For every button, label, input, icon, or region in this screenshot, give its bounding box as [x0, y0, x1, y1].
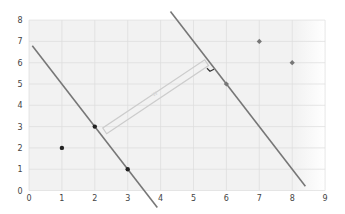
x-tick-label: 1: [59, 194, 64, 203]
data-point-class-a: [93, 124, 97, 128]
y-axis-ticks: 012345678: [17, 16, 22, 195]
x-tick-label: 2: [92, 194, 97, 203]
x-tick-label: 8: [290, 194, 295, 203]
y-tick-label: 2: [17, 144, 22, 153]
x-tick-label: 5: [191, 194, 196, 203]
y-tick-label: 8: [17, 16, 22, 25]
x-tick-label: 9: [323, 194, 328, 203]
y-tick-label: 7: [17, 37, 22, 46]
svm-margin-chart: 0123456789 012345678 w: [0, 0, 345, 214]
y-tick-label: 5: [17, 80, 22, 89]
x-tick-label: 6: [224, 194, 229, 203]
y-tick-label: 6: [17, 59, 22, 68]
x-axis-ticks: 0123456789: [26, 194, 327, 203]
y-tick-label: 1: [17, 165, 22, 174]
x-tick-label: 7: [257, 194, 262, 203]
data-point-class-a: [126, 167, 130, 171]
x-tick-label: 0: [26, 194, 31, 203]
x-tick-label: 4: [158, 194, 163, 203]
x-tick-label: 3: [125, 194, 130, 203]
y-tick-label: 4: [17, 101, 22, 110]
y-tick-label: 0: [17, 187, 22, 196]
data-point-class-a: [60, 146, 64, 150]
y-tick-label: 3: [17, 123, 22, 132]
